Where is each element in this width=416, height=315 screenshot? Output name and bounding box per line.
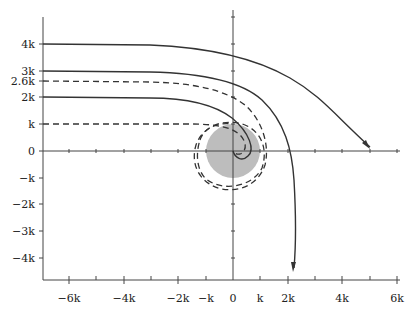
x-label-neg-k: −k xyxy=(198,292,214,305)
x-label-4k: 4k xyxy=(335,292,349,305)
x-label-2k: 2k xyxy=(281,292,295,305)
x-label-neg-2k: −2k xyxy=(167,292,190,305)
x-label-6k: 6k xyxy=(390,292,404,305)
y-label-neg-k: −k xyxy=(19,172,35,185)
left-axis-ticks xyxy=(39,44,43,258)
trajectory-3k xyxy=(43,71,296,268)
y-label-2.6k: 2.6k xyxy=(11,75,35,88)
y-label-neg-4k: −4k xyxy=(12,252,35,265)
trajectory-diagram: 4k 3k 2.6k 2k k 0 −k −2k −3k −4k −6k −4k… xyxy=(0,0,416,315)
y-axis-labels: 4k 3k 2.6k 2k k 0 −k −2k −3k −4k xyxy=(11,38,36,265)
x-label-0: 0 xyxy=(230,292,237,305)
x-label-k: k xyxy=(257,292,264,305)
y-label-4k: 4k xyxy=(21,38,35,51)
y-label-0: 0 xyxy=(28,145,35,158)
y-label-neg-2k: −2k xyxy=(12,198,35,211)
x-label-neg-4k: −4k xyxy=(113,292,136,305)
y-label-neg-3k: −3k xyxy=(12,225,35,238)
trajectory-4k xyxy=(43,44,370,147)
x-axis-labels: −6k −4k −2k −k 0 k 2k 4k 6k xyxy=(58,292,405,305)
x-label-neg-6k: −6k xyxy=(58,292,81,305)
y-label-2k: 2k xyxy=(21,91,35,104)
arrowhead-3k xyxy=(291,262,296,272)
y-label-k: k xyxy=(28,118,35,131)
